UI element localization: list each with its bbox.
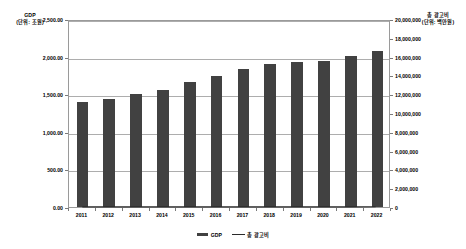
x-tick-label-2013: 2013 <box>122 212 149 219</box>
right-tick-mark <box>390 133 393 134</box>
chart-container: GDP (단위: 조원) 총 광고비 (단위: 백만원) 0.00500.001… <box>0 0 466 249</box>
x-tick-label-2019: 2019 <box>283 212 310 219</box>
x-tick-mark <box>256 208 257 211</box>
x-tick-label-2021: 2021 <box>336 212 363 219</box>
right-tick-label: 4,000,000 <box>395 167 439 173</box>
plot-area <box>68 20 390 208</box>
x-tick-mark <box>175 208 176 211</box>
left-tick-mark <box>65 58 68 59</box>
left-tick-label: 1,500.00 <box>23 92 63 98</box>
x-tick-mark <box>229 208 230 211</box>
x-tick-label-2020: 2020 <box>310 212 337 219</box>
right-tick-label: 6,000,000 <box>395 149 439 155</box>
x-tick-mark <box>310 208 311 211</box>
right-tick-label: 18,000,000 <box>395 36 439 42</box>
left-tick-mark <box>65 95 68 96</box>
left-tick-mark <box>65 20 68 21</box>
x-tick-mark <box>149 208 150 211</box>
right-tick-label: 16,000,000 <box>395 55 439 61</box>
x-tick-mark <box>283 208 284 211</box>
right-tick-mark <box>390 95 393 96</box>
x-tick-label-2012: 2012 <box>95 212 122 219</box>
right-tick-mark <box>390 152 393 153</box>
legend-entry: 총 광고비 <box>232 231 269 238</box>
legend-label: GDP <box>211 232 222 238</box>
x-tick-label-2018: 2018 <box>256 212 283 219</box>
right-tick-mark <box>390 76 393 77</box>
x-tick-mark <box>95 208 96 211</box>
line-series-svg <box>69 21 389 207</box>
right-tick-mark <box>390 58 393 59</box>
legend-label: 총 광고비 <box>247 231 268 238</box>
x-tick-mark <box>363 208 364 211</box>
x-tick-mark <box>122 208 123 211</box>
x-tick-label-2014: 2014 <box>149 212 176 219</box>
right-tick-mark <box>390 114 393 115</box>
x-tick-mark <box>202 208 203 211</box>
left-tick-mark <box>65 170 68 171</box>
left-tick-label: 0.00 <box>23 205 63 211</box>
x-tick-label-2017: 2017 <box>229 212 256 219</box>
legend-line-swatch-icon <box>232 234 245 235</box>
x-tick-label-2016: 2016 <box>202 212 229 219</box>
left-tick-label: 2,000.00 <box>23 55 63 61</box>
x-tick-mark <box>68 208 69 211</box>
right-tick-label: 10,000,000 <box>395 111 439 117</box>
legend-entry: GDP <box>197 232 222 238</box>
right-tick-label: 2,000,000 <box>395 186 439 192</box>
right-tick-label: 0 <box>395 205 439 211</box>
legend-bar-swatch-icon <box>197 233 208 237</box>
left-tick-label: 1,000.00 <box>23 130 63 136</box>
right-tick-mark <box>390 189 393 190</box>
x-tick-label-2022: 2022 <box>363 212 390 219</box>
right-tick-label: 8,000,000 <box>395 130 439 136</box>
chart-legend: GDP총 광고비 <box>0 231 466 238</box>
x-tick-mark <box>390 208 391 211</box>
x-tick-label-2015: 2015 <box>175 212 202 219</box>
x-tick-mark <box>336 208 337 211</box>
x-tick-label-2011: 2011 <box>68 212 95 219</box>
left-tick-label: 500.00 <box>23 167 63 173</box>
series-layer <box>69 21 389 207</box>
right-tick-label: 20,000,000 <box>395 17 439 23</box>
left-tick-label: 2,500.00 <box>23 17 63 23</box>
right-tick-mark <box>390 20 393 21</box>
right-tick-mark <box>390 39 393 40</box>
right-tick-label: 12,000,000 <box>395 92 439 98</box>
left-tick-mark <box>65 133 68 134</box>
right-tick-mark <box>390 170 393 171</box>
right-tick-label: 14,000,000 <box>395 73 439 79</box>
